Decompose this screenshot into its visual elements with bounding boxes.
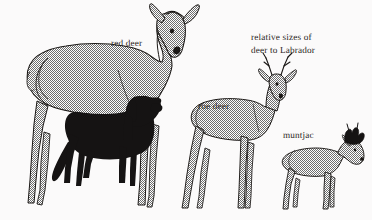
figure-caption: relative sizes of deer to Labrador [251,31,315,56]
caption-line-2: deer to Labrador [251,44,315,57]
red-deer-eye [170,29,174,34]
roe-deer-eye [276,82,279,85]
comparison-illustration [0,0,372,220]
label-red-deer: red deer [111,37,142,50]
caption-line-1: relative sizes of [251,31,315,44]
muntjac-eye [354,149,356,152]
label-muntjac: muntjac [283,129,314,142]
deer-size-comparison-figure: red deer roe deer muntjac relative sizes… [0,0,372,220]
labrador-muzzle [150,104,162,113]
label-roe-deer: roe deer [198,100,229,113]
